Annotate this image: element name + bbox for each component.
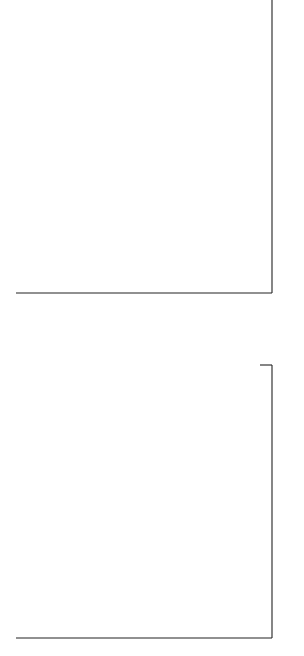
- panel-short-term-rates: [16, 365, 272, 638]
- chart-page: [0, 0, 304, 656]
- rotated-figure: [0, 0, 304, 656]
- panel-bond-yields: [16, 0, 272, 293]
